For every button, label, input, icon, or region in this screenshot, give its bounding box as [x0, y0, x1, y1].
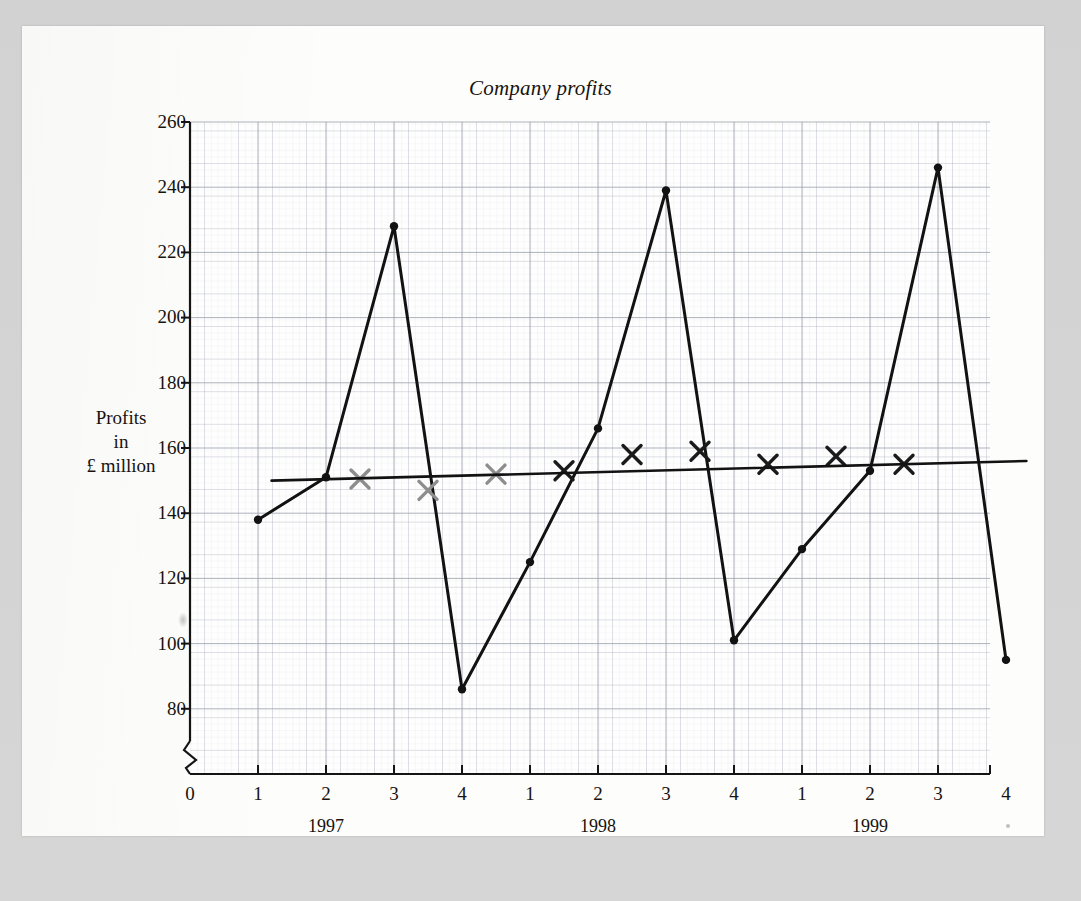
data-point-1997-q4	[458, 685, 466, 693]
grid-area	[190, 122, 990, 774]
data-point-1999-q4	[1002, 656, 1010, 664]
data-point-1998-q2	[594, 424, 602, 432]
data-point-1999-q1	[798, 545, 806, 553]
data-point-1999-q2	[866, 467, 874, 475]
y-axis-ticks	[181, 122, 190, 709]
data-point-1997-q3	[390, 222, 398, 230]
data-point-1998-q3	[662, 186, 670, 194]
page-background: Company profits Profits in £ million 260…	[0, 0, 1081, 901]
data-point-1998-q1	[526, 558, 534, 566]
data-point-1997-q1	[254, 516, 262, 524]
data-point-1999-q3	[934, 163, 942, 171]
data-point-1998-q4	[730, 636, 738, 644]
chart-plot	[0, 0, 1081, 901]
